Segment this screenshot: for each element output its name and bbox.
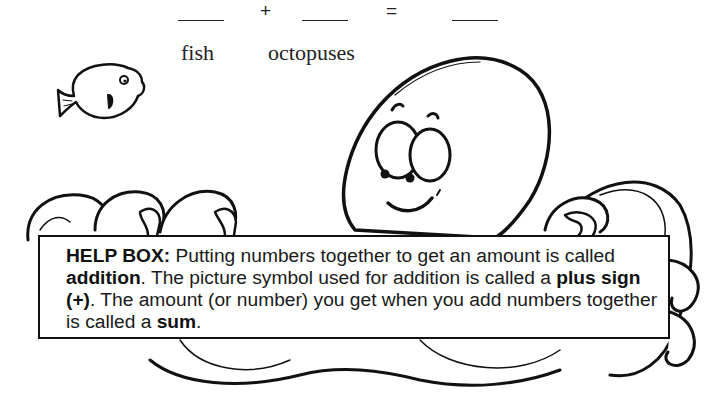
- label-octopuses: octopuses: [268, 40, 355, 66]
- equals-sign: =: [386, 0, 397, 22]
- help-seg-6: .: [196, 311, 201, 332]
- help-box-title: HELP BOX:: [66, 245, 170, 266]
- equation-row: + =: [0, 0, 710, 30]
- plus-sign: +: [260, 0, 271, 22]
- help-seg-4: . The amount (or number) you get when yo…: [66, 289, 657, 332]
- answer-blank-sum[interactable]: [452, 4, 498, 21]
- help-seg-0: Putting numbers together to get an amoun…: [175, 245, 614, 266]
- label-fish: fish: [181, 40, 214, 66]
- fish-icon: [58, 64, 144, 118]
- answer-blank-octopuses[interactable]: [302, 4, 348, 21]
- help-seg-2: . The picture symbol used for addition i…: [141, 267, 557, 288]
- term-addition: addition: [66, 267, 141, 288]
- answer-blank-fish[interactable]: [178, 4, 224, 21]
- term-sum: sum: [157, 311, 196, 332]
- help-box-text: HELP BOX: Putting numbers together to ge…: [66, 245, 666, 333]
